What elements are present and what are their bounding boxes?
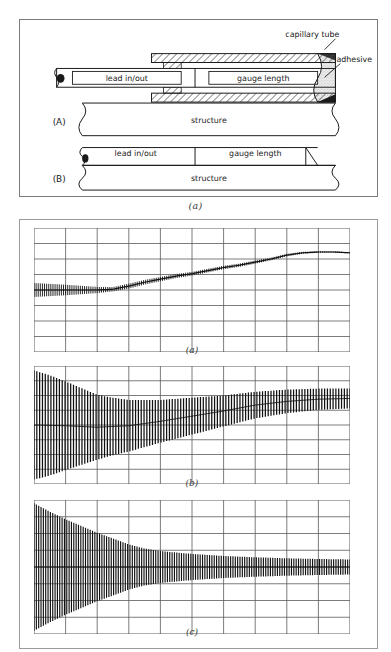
capillary-tube-leader: [325, 39, 336, 50]
strain-gauge-diagram: lead in/out gauge length: [19, 19, 378, 197]
chart-panel-c: (c): [34, 500, 350, 634]
gauge-length-label-a: gauge length: [237, 74, 289, 83]
gauge-body-panel-b: lead in/out gauge length: [80, 148, 336, 166]
lead-in-out-box-a: lead in/out: [72, 71, 181, 84]
gauge-length-label-b: gauge length: [229, 149, 281, 158]
figure-caption-a: (a): [0, 200, 391, 211]
lead-in-out-label-b: lead in/out: [115, 149, 157, 158]
capillary-wall-lower: [152, 93, 336, 102]
capillary-wall-upper: [152, 54, 336, 63]
structure-block-a: structure: [79, 103, 339, 136]
panel-tag-b: (B): [53, 174, 66, 184]
capillary-tube-label: capillary tube: [285, 30, 339, 39]
recorder-charts-figure: (a) (b) (c): [19, 219, 378, 649]
lead-in-out-label-a: lead in/out: [106, 74, 148, 83]
bond-pad-lower: [163, 87, 181, 93]
chart-panel-b: (b): [34, 366, 350, 484]
structure-label-b: structure: [191, 174, 227, 183]
adhesive-label: adhesive: [336, 55, 372, 64]
structure-label-a: structure: [191, 116, 227, 125]
panel-tag-a: (A): [53, 117, 66, 127]
bond-pad-upper: [163, 63, 181, 69]
structure-block-b: structure: [79, 165, 339, 190]
figure-page: lead in/out gauge length: [0, 0, 391, 652]
chart-panel-a: (a): [34, 228, 350, 352]
gauge-length-box-a: gauge length: [209, 71, 318, 84]
